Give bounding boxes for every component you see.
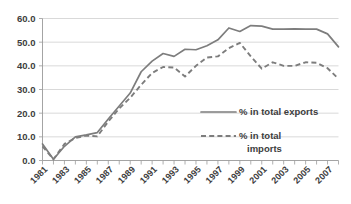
legend-label-exports: % in total exports xyxy=(239,106,318,117)
chart-container: 0.010.020.030.040.050.060.0 198119831985… xyxy=(0,0,351,204)
x-tick-label: 1989 xyxy=(116,164,137,185)
x-tick-label: 1983 xyxy=(50,164,71,185)
x-tick-label: 1981 xyxy=(28,164,49,185)
x-tick-label: 2003 xyxy=(269,164,290,185)
chart-legend: % in total exports % in total imports xyxy=(201,106,318,154)
legend-label-imports-line2: imports xyxy=(247,143,282,154)
x-tick-label: 2001 xyxy=(247,164,268,185)
series-line-exports xyxy=(43,26,339,160)
y-axis-tick-labels: 0.010.020.030.040.050.060.0 xyxy=(17,13,36,166)
series-line-imports xyxy=(43,43,339,159)
gridlines xyxy=(39,19,339,161)
y-tick-label: 60.0 xyxy=(17,13,36,24)
y-tick-label: 50.0 xyxy=(17,37,36,48)
x-tick-label: 1987 xyxy=(94,164,115,185)
x-tick-label: 1993 xyxy=(160,164,181,185)
x-tick-label: 2005 xyxy=(291,164,312,185)
x-tick-label: 1991 xyxy=(138,164,159,185)
y-tick-label: 0.0 xyxy=(22,155,35,166)
x-axis-tick-marks xyxy=(43,161,339,165)
y-tick-label: 20.0 xyxy=(17,108,36,119)
x-tick-label: 1995 xyxy=(182,164,203,185)
legend-label-imports-line1: % in total xyxy=(239,130,281,141)
y-tick-label: 10.0 xyxy=(17,131,36,142)
y-tick-label: 40.0 xyxy=(17,60,36,71)
x-tick-label: 2007 xyxy=(313,164,334,185)
x-axis-tick-labels: 1981198319851987198919911993199519971999… xyxy=(28,164,334,185)
x-tick-label: 1997 xyxy=(204,164,225,185)
line-chart: 0.010.020.030.040.050.060.0 198119831985… xyxy=(0,0,351,204)
y-tick-label: 30.0 xyxy=(17,84,36,95)
x-tick-label: 1985 xyxy=(72,164,93,185)
x-tick-label: 1999 xyxy=(226,164,247,185)
